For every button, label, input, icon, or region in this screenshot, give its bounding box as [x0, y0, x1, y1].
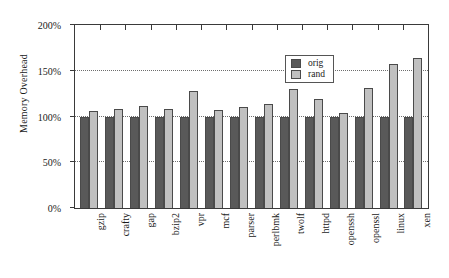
- x-label-cell: openssh: [327, 210, 352, 276]
- bar-group: [77, 25, 102, 208]
- memory-overhead-bar-chart: Memory Overhead 0%50%100%150%200% orig r…: [0, 0, 449, 278]
- bar-gap-rand: [139, 106, 148, 208]
- bar-crafty-rand: [114, 109, 123, 208]
- y-tick-label-100%: 100%: [38, 111, 61, 122]
- bar-mcf-rand: [214, 110, 223, 208]
- bar-vpr-orig: [180, 117, 189, 209]
- bar-gzip-orig: [80, 117, 89, 209]
- y-axis-title: Memory Overhead: [18, 24, 29, 164]
- legend: orig rand: [285, 55, 334, 83]
- bar-linux-rand: [389, 64, 398, 208]
- x-axis-labels: gzipcraftygapbzip2vprmcfparserperlbmktwo…: [74, 210, 429, 276]
- x-label-cell: mcf: [201, 210, 226, 276]
- bar-gap-orig: [130, 117, 139, 209]
- bar-perlbmk-rand: [264, 104, 273, 208]
- x-label-cell: httpd: [302, 210, 327, 276]
- bar-httpd-rand: [314, 99, 323, 208]
- bar-bzip2-rand: [164, 109, 173, 208]
- legend-item-orig: orig: [291, 59, 325, 69]
- legend-label-rand: rand: [308, 70, 325, 80]
- bar-group: [401, 25, 426, 208]
- x-label-cell: crafty: [101, 210, 126, 276]
- x-label-cell: bzip2: [151, 210, 176, 276]
- legend-swatch-rand-icon: [291, 70, 301, 79]
- x-label-cell: gap: [126, 210, 151, 276]
- x-label-cell: xen: [402, 210, 427, 276]
- y-tick-label-0%: 0%: [48, 203, 61, 214]
- bar-xen-rand: [413, 58, 422, 208]
- bar-httpd-orig: [305, 117, 314, 209]
- x-label-cell: gzip: [76, 210, 101, 276]
- x-label-cell: parser: [226, 210, 251, 276]
- bar-group: [251, 25, 276, 208]
- plot-area: 0%50%100%150%200% orig rand: [74, 24, 429, 209]
- x-label-cell: twolf: [277, 210, 302, 276]
- bar-parser-rand: [239, 107, 248, 208]
- legend-item-rand: rand: [291, 70, 325, 80]
- bar-openssh-rand: [339, 113, 348, 208]
- x-label-cell: perlbmk: [252, 210, 277, 276]
- x-label-cell: vpr: [176, 210, 201, 276]
- bar-parser-orig: [230, 117, 239, 209]
- bar-twolf-rand: [289, 89, 298, 208]
- bar-group: [127, 25, 152, 208]
- x-label-cell: linux: [377, 210, 402, 276]
- y-tick-label-150%: 150%: [38, 65, 61, 76]
- bar-group: [301, 25, 326, 208]
- bar-openssh-orig: [330, 117, 339, 209]
- bar-openssl-orig: [355, 117, 364, 209]
- y-tick-label-200%: 200%: [38, 20, 61, 31]
- bar-group: [202, 25, 227, 208]
- bar-bzip2-orig: [155, 117, 164, 209]
- x-label-cell: openssl: [352, 210, 377, 276]
- bar-crafty-orig: [105, 117, 114, 209]
- y-tick-label-50%: 50%: [43, 157, 61, 168]
- bar-vpr-rand: [189, 91, 198, 208]
- bar-mcf-orig: [205, 117, 214, 209]
- bar-gzip-rand: [89, 111, 98, 208]
- bars-container: [75, 25, 428, 208]
- bar-twolf-orig: [280, 117, 289, 209]
- bar-xen-orig: [404, 117, 413, 209]
- bar-group: [326, 25, 351, 208]
- bar-group: [351, 25, 376, 208]
- bar-group: [376, 25, 401, 208]
- bar-group: [177, 25, 202, 208]
- bar-linux-orig: [380, 117, 389, 209]
- bar-group: [276, 25, 301, 208]
- legend-swatch-orig-icon: [291, 59, 301, 68]
- bar-group: [227, 25, 252, 208]
- bar-group: [102, 25, 127, 208]
- bar-perlbmk-orig: [255, 117, 264, 209]
- x-axis-label-xen: xen: [420, 213, 431, 227]
- legend-label-orig: orig: [308, 59, 323, 69]
- bar-group: [152, 25, 177, 208]
- bar-openssl-rand: [364, 88, 373, 208]
